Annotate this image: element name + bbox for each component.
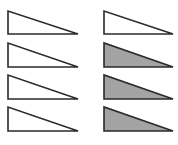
shaded-triangle-right-3 [104,75,173,99]
column-right [104,11,173,131]
triangle-diagram [0,0,178,145]
column-left [8,11,78,131]
unshaded-triangle-left-4 [8,107,78,131]
shaded-triangle-right-4 [104,107,173,131]
unshaded-triangle-left-1 [8,11,78,34]
unshaded-triangle-right-1 [104,11,173,34]
unshaded-triangle-left-3 [8,75,78,99]
shaded-triangle-right-2 [104,43,173,67]
unshaded-triangle-left-2 [8,43,78,67]
